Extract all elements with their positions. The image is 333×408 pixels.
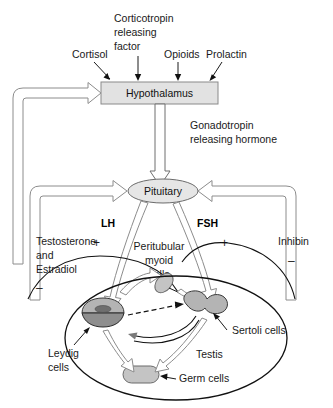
input-arrow-crf: [135, 56, 141, 81]
label-peritubular-line2: myoid: [145, 254, 173, 266]
dashed-arrow-leydig-sertoli: [128, 302, 184, 316]
input-arrow-prolactin: [210, 62, 223, 81]
label-leydig-line2: cells: [48, 361, 69, 373]
label-inhibin: Inhibin: [278, 235, 309, 247]
arrow-to-myoid: [120, 268, 161, 295]
arrow-leydig-to-germ: [103, 330, 134, 372]
sign-lh-plus: +: [93, 236, 100, 250]
hpt-axis-diagram: Cortisol Corticotropin releasing factor …: [0, 0, 333, 408]
label-testosterone-line3: Estradiol: [36, 263, 77, 275]
gnrh-arrow: [150, 104, 170, 186]
label-crf-line3: factor: [114, 40, 141, 52]
pituitary-label: Pituitary: [144, 185, 183, 197]
label-prolactin: Prolactin: [206, 48, 247, 60]
label-gnrh-line1: Gonadotropin: [190, 119, 254, 131]
label-sertoli: Sertoli cells: [232, 324, 286, 336]
input-arrow-cortisol: [94, 62, 110, 80]
label-germ-cells: Germ cells: [179, 372, 229, 384]
label-leydig-line1: Leydig: [48, 347, 79, 359]
label-testosterone-line1: Testosterone: [36, 235, 96, 247]
hypothalamus-label: Hypothalamus: [126, 87, 193, 99]
sertoli-pointer: [213, 313, 227, 330]
label-opioids: Opioids: [164, 48, 200, 60]
input-arrow-opioids: [175, 62, 181, 81]
arrow-sertoli-to-germ: [155, 318, 207, 372]
testis-outline: [65, 276, 287, 400]
label-crf-line1: Corticotropin: [114, 12, 174, 24]
label-cortisol: Cortisol: [72, 48, 108, 60]
label-lh: LH: [101, 217, 115, 229]
label-peritubular-line1: Peritubular: [134, 240, 185, 252]
diagram-canvas: Cortisol Corticotropin releasing factor …: [0, 0, 333, 408]
label-fsh: FSH: [197, 217, 218, 229]
leydig-pointer: [74, 327, 90, 345]
germ-pointer: [160, 374, 176, 381]
label-testis: Testis: [196, 348, 223, 360]
label-gnrh-line2: releasing hormone: [190, 133, 277, 145]
label-crf-line2: releasing: [114, 26, 157, 38]
leydig-cell: [82, 298, 124, 327]
sign-inhibin-minus: –: [288, 254, 295, 268]
label-testosterone-line2: and: [36, 249, 54, 261]
